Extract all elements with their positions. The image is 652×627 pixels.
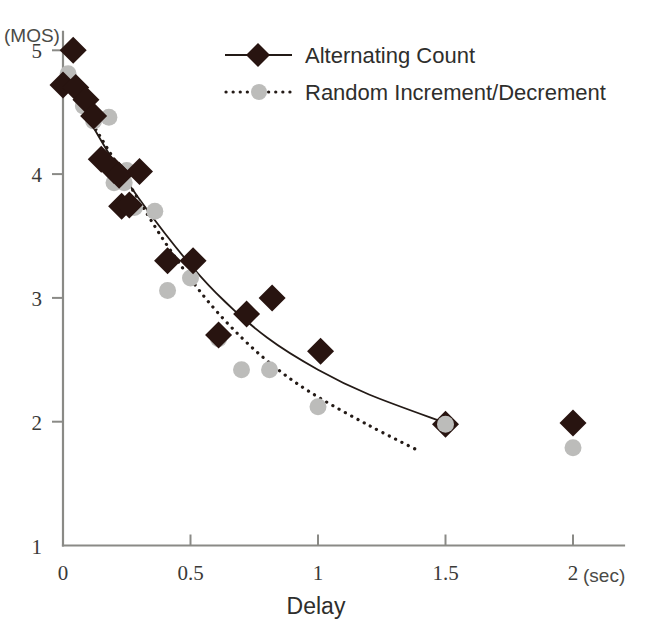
data-point-alternating (205, 322, 232, 349)
x-tick-label-0: 0 (58, 561, 69, 585)
data-point-random (233, 361, 250, 378)
legend-label-alternating-count: Alternating Count (305, 43, 475, 68)
x-axis-tick-labels: 00.511.52 (58, 561, 579, 585)
fit-curves-group (68, 82, 445, 450)
data-point-random (310, 398, 327, 415)
scatter-plot: 12345 00.511.52 (MOS) (sec) Delay Altern… (0, 0, 652, 627)
y-tick-label-4: 4 (32, 163, 43, 187)
x-tick-label-1.5: 1.5 (432, 561, 458, 585)
data-point-alternating (233, 300, 260, 327)
data-point-alternating (154, 247, 181, 274)
data-point-alternating (259, 284, 286, 311)
y-tick-label-1: 1 (32, 535, 43, 559)
x-axis-title: Delay (287, 593, 346, 619)
chart-container: 12345 00.511.52 (MOS) (sec) Delay Altern… (0, 0, 652, 627)
y-axis-tick-labels: 12345 (32, 39, 43, 558)
y-tick-label-3: 3 (32, 287, 43, 311)
data-point-alternating (307, 338, 334, 365)
legend-item-random-increment-decrement[interactable]: Random Increment/Decrement (226, 80, 606, 105)
data-point-random (146, 203, 163, 220)
y-axis-unit-label: (MOS) (4, 25, 60, 46)
x-tick-label-2: 2 (568, 561, 579, 585)
x-tick-label-0.5: 0.5 (177, 561, 203, 585)
x-axis-ticks (191, 535, 574, 546)
y-tick-label-2: 2 (32, 411, 43, 435)
y-axis-ticks (52, 50, 63, 421)
x-axis-unit-label: (sec) (583, 565, 625, 586)
data-point-alternating (560, 409, 587, 436)
x-tick-label-1: 1 (313, 561, 324, 585)
data-point-alternating (180, 247, 207, 274)
legend-circle-icon (251, 84, 267, 100)
fit-curve-alternating-count (68, 82, 445, 422)
legend: Alternating Count Random Increment/Decre… (225, 43, 606, 105)
legend-diamond-icon (246, 43, 270, 67)
axes-group (52, 32, 624, 546)
data-point-random (182, 270, 199, 287)
data-point-random (159, 282, 176, 299)
data-point-random (261, 361, 278, 378)
data-point-random (565, 439, 582, 456)
legend-item-alternating-count[interactable]: Alternating Count (225, 43, 475, 68)
legend-label-random-increment-decrement: Random Increment/Decrement (305, 80, 606, 105)
data-point-random-overlap (437, 416, 454, 433)
